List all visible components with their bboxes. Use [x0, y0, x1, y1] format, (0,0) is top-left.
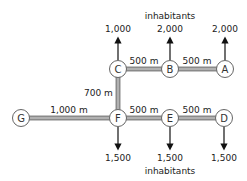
node-b: B	[162, 61, 179, 78]
population-f: 1,500	[105, 153, 131, 163]
population-d: 1,500	[211, 153, 237, 163]
population-e: 1,500	[157, 153, 183, 163]
distance-g-f: 1,000 m	[50, 105, 87, 115]
node-e: E	[162, 110, 179, 127]
svg-text:B: B	[167, 64, 174, 75]
distance-b-a: 500 m	[183, 56, 212, 66]
unit-label-bottom: inhabitants	[145, 166, 196, 176]
svg-text:G: G	[17, 113, 25, 124]
distance-e-d: 500 m	[183, 105, 212, 115]
node-a: A	[217, 61, 234, 78]
svg-text:F: F	[115, 113, 121, 124]
node-c: C	[110, 61, 127, 78]
population-a: 2,000	[212, 24, 238, 34]
unit-label-top: inhabitants	[145, 11, 196, 21]
svg-text:A: A	[222, 64, 229, 75]
distance-c-f: 700 m	[84, 88, 113, 98]
node-g: G	[13, 110, 30, 127]
distance-f-e: 500 m	[130, 105, 159, 115]
svg-text:E: E	[167, 113, 173, 124]
distance-c-b: 500 m	[130, 56, 159, 66]
node-d: D	[216, 110, 233, 127]
population-c: 1,000	[105, 24, 131, 34]
svg-text:D: D	[220, 113, 228, 124]
population-b: 2,000	[157, 24, 183, 34]
node-f: F	[110, 110, 127, 127]
svg-text:C: C	[115, 64, 122, 75]
